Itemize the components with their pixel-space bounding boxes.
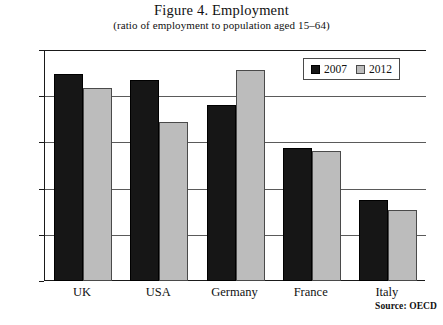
plot-area	[44, 50, 425, 281]
bar-uk-2012	[83, 88, 112, 281]
bar-germany-2007	[207, 105, 236, 281]
y-tick-mark	[39, 142, 44, 143]
y-tick-mark	[39, 235, 44, 236]
legend-swatch-2012-icon	[356, 65, 365, 74]
legend-item-2007[interactable]: 2007	[311, 63, 347, 75]
bar-france-2012	[312, 151, 341, 281]
legend-label-2007: 2007	[324, 63, 347, 75]
bar-italy-2012	[388, 210, 417, 281]
x-tick-label-france: France	[273, 285, 349, 299]
x-tick-label-usa: USA	[120, 285, 196, 299]
source-note: Source: OECD	[375, 301, 437, 312]
bar-usa-2007	[130, 80, 159, 281]
figure-title: Figure 4. Employment	[0, 2, 443, 19]
x-tick-label-italy: Italy	[349, 285, 425, 299]
legend: 2007 2012	[303, 58, 400, 80]
legend-label-2012: 2012	[369, 63, 392, 75]
bar-germany-2012	[236, 70, 265, 281]
y-tick-mark	[39, 281, 44, 282]
bar-italy-2007	[359, 200, 388, 281]
y-tick-mark	[39, 96, 44, 97]
figure-employment: Figure 4. Employment (ratio of employmen…	[0, 0, 443, 325]
y-tick-mark	[39, 50, 44, 51]
x-tick-label-germany: Germany	[196, 285, 272, 299]
y-tick-mark	[39, 189, 44, 190]
x-tick-label-uk: UK	[44, 285, 120, 299]
bar-uk-2007	[54, 74, 83, 281]
legend-swatch-2007-icon	[311, 65, 320, 74]
bar-usa-2012	[159, 122, 188, 281]
title-block: Figure 4. Employment (ratio of employmen…	[0, 2, 443, 32]
figure-subtitle: (ratio of employment to population aged …	[0, 19, 443, 32]
legend-item-2012[interactable]: 2012	[356, 63, 392, 75]
bar-france-2007	[283, 148, 312, 281]
bars-layer	[45, 50, 426, 281]
